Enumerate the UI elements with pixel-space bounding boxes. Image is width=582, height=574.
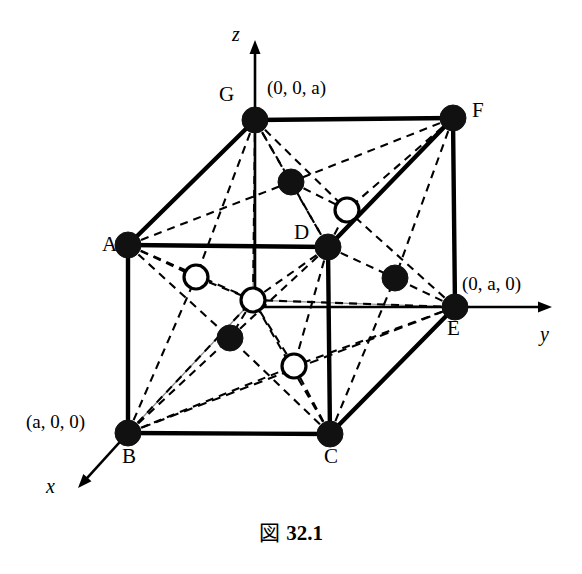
cube-edge-EF (453, 118, 455, 307)
axis-arrowhead-y (538, 302, 552, 313)
vertex-label-F: F (472, 100, 484, 121)
figure-caption: 図32.1 (0, 516, 582, 546)
vertex-label-E: E (447, 318, 460, 339)
dashed-bond-C-i5 (330, 278, 395, 434)
atom-vertex-D (315, 234, 341, 260)
coord-label-z-intercept: (0, 0, a) (267, 78, 326, 97)
atom-vertex-A (115, 232, 141, 258)
atom-open-i3 (184, 265, 208, 289)
atom-filled-i1 (278, 169, 304, 195)
cube-edge-CD (328, 247, 330, 434)
vertex-label-D: D (294, 222, 309, 243)
atom-open-i2 (335, 198, 359, 222)
axis-label-z: z (232, 24, 240, 44)
axis-label-y: y (540, 324, 549, 344)
atom-vertex-G (242, 107, 268, 133)
dashed-bond-A-i6 (128, 245, 230, 338)
atom-filled-i5 (382, 265, 408, 291)
caption-symbol: 図 (259, 521, 280, 545)
vertex-label-G: G (219, 84, 234, 105)
dashed-bond-E-i7 (294, 307, 455, 366)
dashed-bond-B-i6 (128, 338, 230, 433)
figure-root: z y x (0, 0, a) (0, a, 0) (a, 0, 0) A B … (0, 0, 582, 574)
cube-edge-GA (128, 120, 255, 245)
dashed-bond-F-i1 (291, 118, 453, 182)
atom-filled-i6 (217, 325, 243, 351)
vertex-label-C: C (324, 446, 338, 467)
coord-label-x-intercept: (a, 0, 0) (26, 412, 85, 431)
atom-vertex-F (440, 105, 466, 131)
cube-edge-AD (128, 245, 328, 247)
cube-edge-GF (255, 118, 453, 120)
atom-open-i7 (282, 354, 306, 378)
axis-arrowhead-z (250, 40, 261, 54)
dashed-bond-F-i5 (395, 118, 453, 278)
atom-vertex-B (115, 420, 141, 446)
atom-open-i4 (241, 288, 265, 312)
vertex-label-B: B (122, 446, 136, 467)
caption-number: 32.1 (286, 521, 323, 545)
axis-label-x: x (46, 476, 55, 496)
vertex-label-A: A (102, 234, 117, 255)
cube-edge-CE (330, 307, 455, 434)
dashed-bond-A-i1 (128, 182, 291, 245)
dashed-bond-D-i4 (253, 247, 328, 300)
cube-edge-BC (128, 433, 330, 434)
coord-label-y-intercept: (0, a, 0) (462, 274, 521, 293)
dashed-bond-E-i2 (347, 210, 455, 307)
cube-edge-DF (328, 118, 453, 247)
